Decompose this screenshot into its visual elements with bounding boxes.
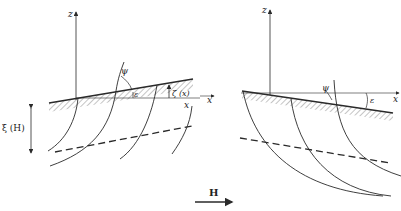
left-psi-label: ψ — [121, 66, 129, 76]
h-field-label: H — [209, 187, 218, 198]
right-epsilon-label: ε — [370, 96, 374, 105]
diagram-canvas: z x ψ ε ζ (x) ξ (H) z x — [0, 0, 401, 211]
left-x-label: x — [184, 100, 189, 110]
left-psi-arc — [121, 76, 132, 90]
right-z-label: z — [261, 5, 267, 15]
left-panel: z x ψ ε ζ (x) ξ (H) — [2, 9, 200, 166]
left-field-line-4 — [172, 106, 192, 154]
left-epsilon-label: ε — [134, 90, 138, 99]
right-epsilon-arc — [366, 93, 368, 108]
right-panel: z x x ψ ε — [200, 5, 401, 196]
left-z-label: z — [67, 9, 73, 19]
left-dashed-depth-line — [55, 126, 192, 152]
left-xi-label: ξ (H) — [2, 123, 25, 133]
right-x-label: x — [393, 94, 398, 104]
field-arrow: H — [195, 187, 232, 202]
left-zeta-label: ζ (x) — [172, 89, 190, 98]
right-psi-label: ψ — [322, 83, 330, 93]
right-x-label-left: x — [207, 95, 212, 105]
right-field-line-3 — [334, 80, 401, 176]
